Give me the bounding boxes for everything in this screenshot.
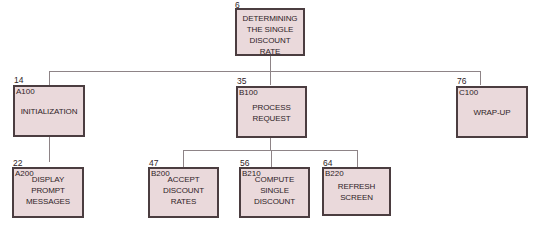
module-box-root: DETERMINING THE SINGLE DISCOUNT RATE: [235, 8, 305, 56]
module-code-c100: C100: [459, 88, 478, 97]
module-title-root: DETERMINING THE SINGLE DISCOUNT RATE: [237, 13, 303, 57]
module-box-a200: A200 DISPLAY PROMPT MESSAGES: [12, 167, 84, 218]
module-title-a100: INITIALIZATION: [15, 106, 83, 117]
module-box-a100: A100 INITIALIZATION: [13, 85, 85, 137]
module-title-a200: DISPLAY PROMPT MESSAGES: [14, 174, 82, 207]
connector-to-b100: [270, 71, 271, 85]
connector-level1-horizontal: [49, 71, 481, 72]
hierarchy-chart: 6 DETERMINING THE SINGLE DISCOUNT RATE 1…: [0, 0, 539, 231]
module-code-b220: B220: [325, 169, 344, 178]
module-code-b100: B100: [239, 88, 258, 97]
module-title-b220: REFRESH SCREEN: [324, 181, 389, 203]
connector-to-b200: [183, 150, 184, 167]
module-title-b200: ACCEPT DISCOUNT RATES: [150, 174, 217, 207]
module-box-b210: B210 COMPUTE SINGLE DISCOUNT: [239, 167, 310, 218]
connector-to-b210: [271, 150, 272, 167]
connector-root-down: [270, 55, 271, 72]
connector-b100-down: [270, 137, 271, 150]
module-title-c100: WRAP-UP: [458, 107, 526, 118]
connector-to-a100: [49, 71, 50, 85]
step-number-a100: 14: [14, 76, 23, 85]
connector-to-c100: [480, 71, 481, 85]
module-title-b210: COMPUTE SINGLE DISCOUNT: [241, 174, 308, 207]
module-code-a100: A100: [16, 87, 35, 96]
module-box-b200: B200 ACCEPT DISCOUNT RATES: [148, 167, 219, 218]
module-title-b100: PROCESS REQUEST: [238, 102, 305, 124]
module-box-b220: B220 REFRESH SCREEN: [322, 167, 391, 216]
step-number-c100: 76: [457, 77, 466, 86]
connector-to-b220: [357, 150, 358, 167]
step-number-b100: 35: [237, 77, 246, 86]
module-box-c100: C100 WRAP-UP: [456, 86, 528, 138]
connector-a100-down: [49, 137, 50, 162]
module-box-b100: B100 PROCESS REQUEST: [236, 86, 307, 138]
